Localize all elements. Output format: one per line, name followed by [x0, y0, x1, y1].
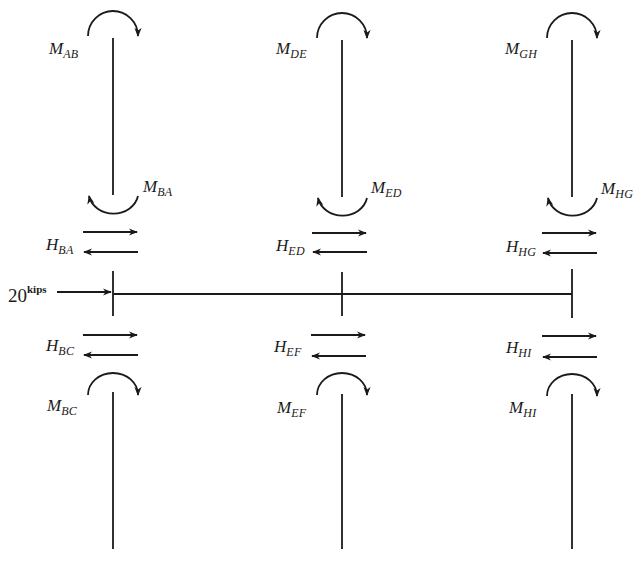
load-label: 20kips: [8, 284, 47, 305]
label-HED: HED: [276, 237, 305, 257]
load-unit: kips: [27, 283, 47, 295]
middle-column: [311, 13, 367, 549]
label-HBC: HBC: [46, 337, 74, 357]
right-column: [542, 13, 597, 549]
label-MGH: MGH: [505, 40, 537, 60]
label-MBC: MBC: [47, 397, 77, 417]
moment-arrow-MEF-icon: [317, 373, 367, 395]
moment-arrow-MHI-icon: [547, 374, 597, 396]
moment-arrow-MHG-icon: [548, 198, 597, 216]
frame-free-body-diagram: MAB MBA HBA HBC MBC MDE MED HED HEF MEF …: [0, 0, 641, 562]
label-HHI: HHI: [506, 339, 532, 359]
label-HHG: HHG: [506, 238, 536, 258]
moment-arrow-MAB-icon: [88, 11, 138, 36]
moment-arrow-MBA-icon: [89, 196, 138, 214]
label-HBA: HBA: [46, 236, 74, 256]
label-MHG: MHG: [601, 180, 633, 200]
label-HEF: HEF: [274, 338, 302, 358]
moment-arrow-MED-icon: [318, 198, 367, 216]
moment-arrow-MBC-icon: [88, 373, 138, 395]
left-column: [83, 11, 138, 549]
label-MBA: MBA: [143, 178, 172, 198]
diagram-canvas: [0, 0, 641, 562]
moment-arrow-MGH-icon: [547, 13, 597, 38]
moment-arrow-MDE-icon: [317, 13, 367, 38]
label-MAB: MAB: [49, 40, 78, 60]
label-MHI: MHI: [509, 399, 536, 419]
label-MEF: MEF: [277, 399, 306, 419]
load-value: 20: [8, 285, 27, 306]
label-MDE: MDE: [276, 40, 307, 60]
label-MED: MED: [371, 179, 402, 199]
